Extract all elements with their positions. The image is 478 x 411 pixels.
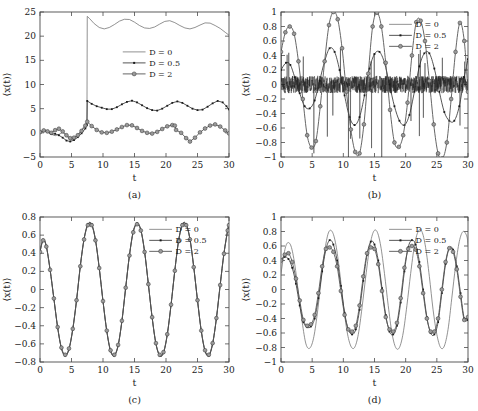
series-marker-circle	[290, 260, 294, 264]
x-tick-label: 15	[369, 365, 381, 375]
series-marker-circle	[143, 250, 147, 254]
series-marker-circle	[90, 223, 94, 227]
y-tick-label: −0.4	[255, 109, 277, 119]
series-marker-circle	[358, 151, 362, 155]
series-marker-circle	[292, 32, 296, 36]
series-marker-circle	[353, 150, 357, 154]
series-marker-dot	[131, 100, 133, 102]
legend-label: D = 0.5	[176, 236, 207, 245]
legend-marker-circle	[398, 249, 402, 253]
legend-label: D = 0.5	[415, 31, 446, 40]
series-marker-circle	[393, 141, 397, 145]
x-tick-label: 25	[192, 365, 204, 375]
series-marker-dot	[379, 51, 381, 53]
series-marker-circle	[379, 25, 383, 29]
series-marker-dot	[101, 107, 103, 109]
series-marker-dot	[463, 76, 465, 78]
series-marker-circle	[324, 247, 328, 251]
series-marker-circle	[115, 128, 119, 132]
series-marker-circle	[384, 61, 388, 65]
series-marker-dot	[84, 128, 86, 130]
y-tick-label: 0.8	[263, 22, 278, 32]
series-marker-circle	[279, 50, 283, 54]
series-marker-circle	[425, 317, 429, 321]
series-marker-circle	[130, 123, 134, 127]
x-axis-label: t	[133, 172, 137, 183]
x-tick-label: 20	[400, 160, 412, 170]
x-tick-label: 25	[431, 160, 443, 170]
y-tick-label: −0.6	[255, 328, 277, 338]
series-marker-circle	[283, 30, 287, 34]
series-marker-dot	[374, 53, 376, 55]
y-tick-label: −0.8	[255, 343, 277, 353]
y-tick-label: 0.8	[263, 227, 278, 237]
x-tick-label: 10	[97, 160, 109, 170]
x-tick-label: 30	[223, 160, 235, 170]
x-tick-label: 30	[223, 365, 235, 375]
series-marker-circle	[112, 353, 116, 357]
y-tick-label: 15	[25, 55, 37, 65]
series-marker-circle	[165, 332, 169, 336]
series-marker-dot	[433, 334, 435, 336]
series-marker-circle	[395, 321, 399, 325]
series-marker-circle	[397, 145, 401, 149]
series-marker-circle	[65, 133, 69, 137]
series-marker-dot	[288, 258, 290, 260]
series-marker-circle	[373, 247, 377, 251]
series-marker-circle	[131, 230, 135, 234]
series-marker-dot	[91, 103, 93, 105]
series-marker-circle	[223, 129, 227, 133]
series-marker-dot	[364, 94, 366, 96]
series-marker-circle	[388, 327, 392, 331]
series-marker-circle	[218, 125, 222, 129]
series-marker-circle	[343, 313, 347, 317]
series-marker-circle	[109, 348, 113, 352]
series-marker-circle	[42, 129, 46, 133]
series-marker-circle	[384, 315, 388, 319]
series-marker-circle	[100, 130, 104, 134]
series-marker-circle	[44, 245, 48, 249]
series-marker-circle	[41, 238, 45, 242]
series-marker-circle	[150, 132, 154, 136]
series-marker-circle	[339, 289, 343, 293]
series-marker-circle	[184, 136, 188, 140]
series-marker-dot	[467, 319, 469, 321]
series-marker-dot	[433, 68, 435, 70]
y-tick-label: 0.6	[22, 230, 37, 240]
series-marker-circle	[305, 133, 309, 137]
series-marker-dot	[467, 58, 469, 60]
series-marker-circle	[305, 324, 309, 328]
x-tick-label: 25	[431, 365, 443, 375]
series-marker-circle	[52, 297, 56, 301]
legend-marker-dot	[133, 62, 135, 64]
series-marker-dot	[428, 52, 430, 54]
series-marker-dot	[453, 120, 455, 122]
series-marker-circle	[162, 350, 166, 354]
x-tick-label: 0	[37, 160, 43, 170]
series-marker-circle	[158, 353, 162, 357]
series-marker-circle	[71, 327, 75, 331]
series-marker-dot	[156, 110, 158, 112]
series-marker-circle	[75, 298, 79, 302]
series-marker-circle	[116, 343, 120, 347]
series-marker-circle	[298, 298, 302, 302]
legend-label: D = 0	[415, 225, 438, 234]
series-marker-dot	[291, 267, 293, 269]
y-tick-label: −0.4	[14, 321, 36, 331]
series-marker-circle	[101, 299, 105, 303]
subplot-label: (d)	[368, 394, 382, 405]
series-marker-circle	[208, 124, 212, 128]
y-tick-label: 0	[30, 285, 36, 295]
series-marker-dot	[222, 101, 224, 103]
x-tick-label: 5	[69, 160, 75, 170]
legend-label: D = 2	[415, 42, 438, 51]
legend-label: D = 2	[176, 247, 199, 256]
y-tick-label: 0.8	[22, 212, 37, 222]
panel-a: 051015202530−50510152025t⟨x(t)⟩(a)D = 0D…	[0, 0, 239, 205]
series-marker-circle	[459, 295, 463, 299]
series-marker-dot	[111, 108, 113, 110]
y-tick-label: −0.6	[14, 339, 36, 349]
series-marker-circle	[38, 250, 42, 254]
series-marker-circle	[198, 130, 202, 134]
series-marker-dot	[146, 107, 148, 109]
